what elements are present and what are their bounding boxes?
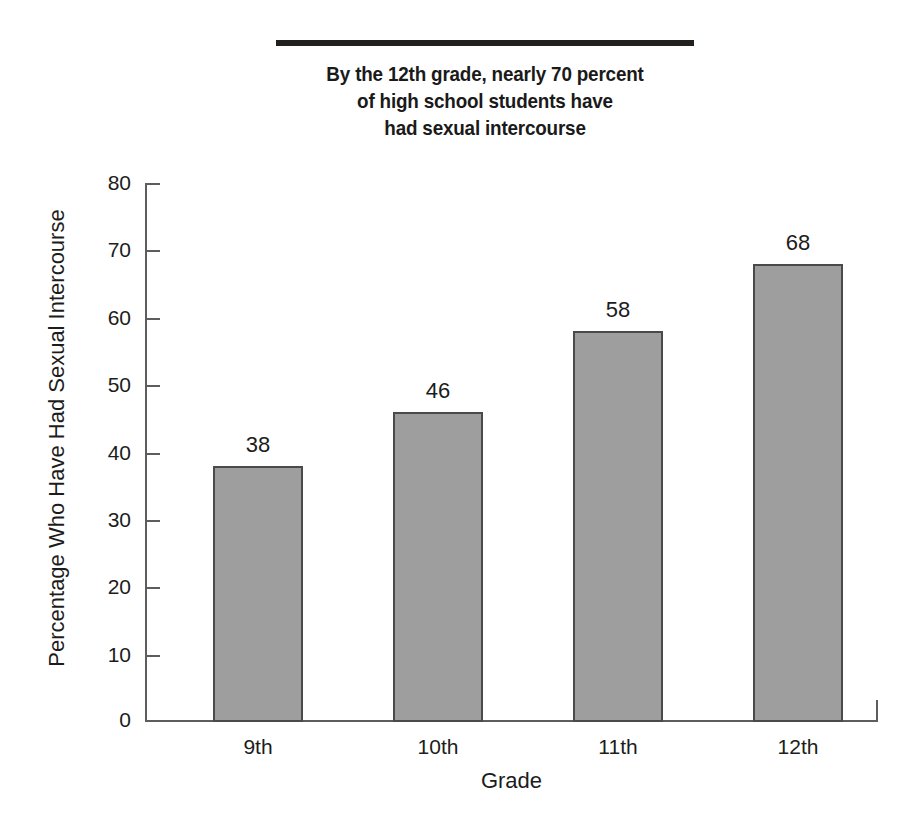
y-axis-title: Percentage Who Have Had Sexual Intercour…: [44, 158, 70, 718]
x-axis-end-tick: [876, 700, 878, 722]
plot-area: 80 70 60 50 40 30 20 10: [145, 183, 878, 722]
y-tick-label: 0: [119, 708, 131, 732]
y-tick-label: 10: [108, 643, 131, 667]
y-tick-label: 40: [108, 441, 131, 465]
chart-title-line-2: of high school students have: [223, 87, 747, 114]
y-tick-label: 80: [108, 171, 131, 195]
y-tick-mark: [147, 655, 160, 657]
y-tick-label: 50: [108, 373, 131, 397]
x-tick-label-11th: 11th: [548, 735, 688, 759]
y-tick-mark: [147, 183, 160, 185]
bar-value-label-10th: 46: [378, 378, 498, 404]
bar-value-label-9th: 38: [198, 432, 318, 458]
bar-value-label-12th: 68: [738, 230, 858, 256]
y-tick-mark: [147, 250, 160, 252]
chart-title-line-3: had sexual intercourse: [223, 114, 747, 141]
bar-11th[interactable]: [573, 331, 663, 722]
chart-title: By the 12th grade, nearly 70 percent of …: [223, 60, 747, 141]
bar-9th[interactable]: [213, 466, 303, 722]
y-tick-mark: [147, 520, 160, 522]
bar-10th[interactable]: [393, 412, 483, 722]
chart-page: By the 12th grade, nearly 70 percent of …: [0, 0, 920, 829]
x-tick-label-12th: 12th: [728, 735, 868, 759]
x-tick-label-9th: 9th: [188, 735, 328, 759]
y-tick-label: 30: [108, 508, 131, 532]
y-tick-label: 70: [108, 238, 131, 262]
y-tick-mark: [147, 453, 160, 455]
chart-title-line-1: By the 12th grade, nearly 70 percent: [223, 60, 747, 87]
y-tick-label: 60: [108, 306, 131, 330]
x-axis-title: Grade: [145, 768, 878, 794]
y-tick-label: 20: [108, 575, 131, 599]
y-tick-mark: [147, 385, 160, 387]
y-tick-mark: [147, 587, 160, 589]
bar-value-label-11th: 58: [558, 297, 678, 323]
y-tick-mark: [147, 318, 160, 320]
x-tick-label-10th: 10th: [368, 735, 508, 759]
bar-12th[interactable]: [753, 264, 843, 722]
title-divider-rule: [276, 40, 694, 46]
